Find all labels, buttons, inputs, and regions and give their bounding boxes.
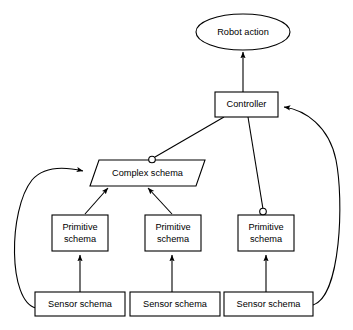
- joint-circle-primitive-schema-3: [260, 208, 267, 215]
- node-robot-action-label: Robot action: [217, 27, 269, 37]
- node-primitive-schema-3-label-line1: Primitive: [248, 222, 283, 232]
- edge-controller-to-complex-schema: [155, 117, 224, 157]
- node-complex-schema-label: Complex schema: [112, 168, 184, 178]
- node-controller-label: Controller: [227, 99, 267, 109]
- node-primitive-schema-3-label-line2: schema: [250, 234, 283, 244]
- edge-primitive-1-to-complex-schema: [85, 188, 108, 214]
- node-primitive-schema-1-label-line1: Primitive: [62, 222, 97, 232]
- schema-hierarchy-diagram: Robot action Controller Complex schema P…: [0, 0, 353, 330]
- node-primitive-schema-2[interactable]: [145, 215, 201, 251]
- edge-primitive-2-to-complex-schema: [148, 188, 172, 214]
- diagram-canvas: Robot action Controller Complex schema P…: [0, 0, 353, 330]
- joint-circle-complex-schema: [149, 156, 156, 163]
- node-primitive-schema-1-label-line2: schema: [64, 234, 97, 244]
- node-primitive-schema-2-label-line2: schema: [157, 234, 190, 244]
- node-sensor-schema-3-label: Sensor schema: [237, 299, 302, 309]
- edge-controller-to-primitive-schema-3: [248, 117, 263, 209]
- edge-sensor-3-feedback-to-controller: [284, 107, 340, 305]
- node-sensor-schema-2-label: Sensor schema: [143, 299, 208, 309]
- node-primitive-schema-3[interactable]: [238, 215, 294, 251]
- node-primitive-schema-2-label-line1: Primitive: [155, 222, 190, 232]
- node-primitive-schema-1[interactable]: [52, 215, 108, 251]
- node-sensor-schema-1-label: Sensor schema: [48, 299, 113, 309]
